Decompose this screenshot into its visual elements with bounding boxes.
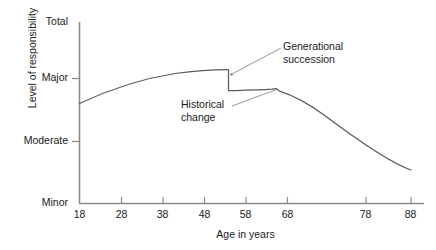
x-axis-title: Age in years [79,228,412,240]
annotation-historical-change: Historical change [181,98,224,123]
x-tick-label-48: 48 [190,209,219,220]
x-tick-label-58: 58 [231,209,260,220]
responsibility-lifespan-chart: Total Major Moderate Minor 18 28 38 48 5… [0,0,436,250]
x-tick-label-78: 78 [351,209,380,220]
x-tick-label-28: 28 [107,209,136,220]
y-tick-label-total: Total [14,16,68,27]
historical-change-leader-line [232,90,277,107]
y-tick-label-minor: Minor [14,197,68,208]
x-tick-label-38: 38 [148,209,177,220]
annotation-historical-change-line2: change [181,111,224,124]
x-tick-label-18: 18 [65,209,94,220]
annotation-historical-change-line1: Historical [181,98,224,111]
y-tick-label-major: Major [14,72,68,83]
annotation-generational-succession: Generational succession [283,40,343,65]
generational-succession-leader-line [232,48,281,74]
annotation-generational-succession-line1: Generational [283,40,343,53]
x-tick-label-68: 68 [273,209,302,220]
generational-succession-target-dot [230,73,232,75]
y-axis-title: Level of responsibility [26,0,38,138]
responsibility-curve [80,70,412,171]
x-tick-label-88: 88 [396,209,425,220]
annotation-generational-succession-line2: succession [283,53,343,66]
